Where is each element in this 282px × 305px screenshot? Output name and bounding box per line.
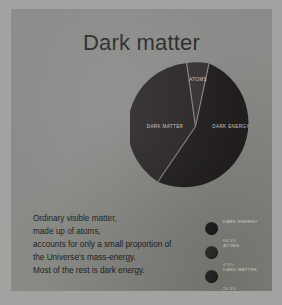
body-line: Ordinary visible matter, [33,212,205,225]
body-copy: Ordinary visible matter, made up of atom… [33,212,205,277]
body-line: Most of the rest is dark energy. [33,264,205,277]
page-title: Dark matter [11,30,272,56]
pie-label-dark-matter: DARK MATTER [147,124,184,129]
legend-item-label: DARK MATTER [223,267,257,272]
legend-item-label: ATOMS [223,243,239,248]
paper-edge-top [0,0,282,9]
legend-swatch-icon [205,222,218,235]
legend-item-percent: 26.8% [223,286,236,291]
legend-swatch-icon [205,270,218,283]
pie-chart: DARK ENERGY DARK MATTER ATOMS [130,61,261,192]
pie-label-dark-energy: DARK ENERGY [212,124,249,129]
chart-legend: DARK ENERGY 68.3% ATOMS 4.9% DARK MATTER… [205,217,275,289]
legend-item-dark-energy[interactable]: DARK ENERGY 68.3% [205,217,275,239]
body-line: the Universe's mass-energy. [33,251,205,264]
poster-board: Dark matter DARK ENERGY DARK MATTER ATOM… [11,9,272,291]
body-line: made up of atoms, [33,225,205,238]
legend-item-dark-matter[interactable]: DARK MATTER 26.8% [205,265,275,287]
legend-item-label: DARK ENERGY [223,219,258,224]
body-line: accounts for only a small proportion of [33,238,205,251]
pie-label-atoms: ATOMS [189,77,207,82]
legend-swatch-icon [205,246,218,259]
paper-edge-left [0,0,11,305]
legend-item-text: DARK MATTER 26.8% [223,257,257,295]
poster: Dark matter DARK ENERGY DARK MATTER ATOM… [0,0,282,305]
pie-chart-svg: DARK ENERGY DARK MATTER ATOMS [130,61,261,192]
